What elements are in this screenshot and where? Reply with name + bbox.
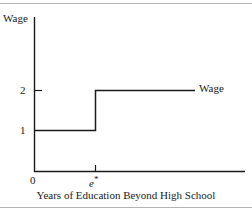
- y-axis-title: Wage: [3, 13, 28, 24]
- x-tick-label-e-star: e*: [89, 175, 98, 189]
- e-star-asterisk: *: [94, 174, 99, 184]
- wage-education-figure: Wage 2 1 0 e* Wage Years of Education Be…: [0, 0, 252, 213]
- plot-area: [0, 0, 252, 213]
- x-axis-title: Years of Education Beyond High School: [0, 190, 252, 201]
- y-tick-label-1: 1: [20, 125, 26, 136]
- wage-step-curve: [34, 91, 195, 131]
- y-tick-label-2: 2: [20, 85, 26, 96]
- x-tick-label-zero: 0: [30, 175, 36, 186]
- wage-series-label: Wage: [199, 83, 224, 94]
